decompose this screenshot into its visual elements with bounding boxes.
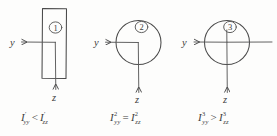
figure-1-formula-operator: < [32,111,38,123]
figure-1-formula-right-sup: ′ [44,110,46,117]
figure-3-formula-left-sup: 3 [202,110,205,117]
figure-3-z-label: z [222,94,227,105]
figure-1-formula-right-symbol: I [40,111,44,123]
figure-2-formula-right-sub: zz [135,118,140,125]
figure-1-z-label: z [51,92,56,103]
figure-1-y-label: y [9,37,15,48]
diagram-canvas: 1 y z 2 y z 3 y z I′y [0,0,277,136]
figure-2-z-axis [138,43,139,93]
figure-3-z-axis [227,30,228,93]
figure-2-formula-left-sup: 2 [114,110,117,117]
figure-1-formula-left-symbol: I [21,111,25,123]
figure-2-y-label: y [93,37,99,48]
rectangle-section-outline [42,9,67,79]
figure-1-group: 1 y z [9,9,67,104]
figure-3-group: 3 y z [181,21,272,106]
figure-2-formula-right-symbol: I [131,111,135,123]
figure-3-formula-operator: > [211,111,217,123]
figure-3-formula-right-symbol: I [219,111,223,123]
figure-2-formula-left-sub: yy [114,118,120,125]
figure-3-formula-right-sub: zz [223,118,228,125]
figure-1-formula: I′yy<I′zz [21,110,48,125]
figure-3-formula-left-symbol: I [198,111,202,123]
figure-3-formula: I3yy>I3zz [198,110,229,125]
figure-2-badge-number: 2 [139,22,143,32]
figure-2-formula-right-sup: 2 [135,110,138,117]
figure-1-badge-number: 1 [53,23,57,33]
figure-2-formula-operator: = [123,111,129,123]
figure-3-badge-number: 3 [228,22,232,32]
figure-3-formula-right-sup: 3 [223,110,226,117]
figure-1-formula-left-sup: ′ [25,110,27,117]
figure-3-formula-left-sub: yy [202,118,208,125]
figure-3-y-label: y [181,37,187,48]
figure-2-z-label: z [134,94,139,105]
figure-2-formula: I2yy=I2zz [110,110,141,125]
figure-2-formula-left-symbol: I [110,111,114,123]
figure-2-group: 2 y z [93,21,161,106]
figure-1-z-axis [55,42,56,89]
